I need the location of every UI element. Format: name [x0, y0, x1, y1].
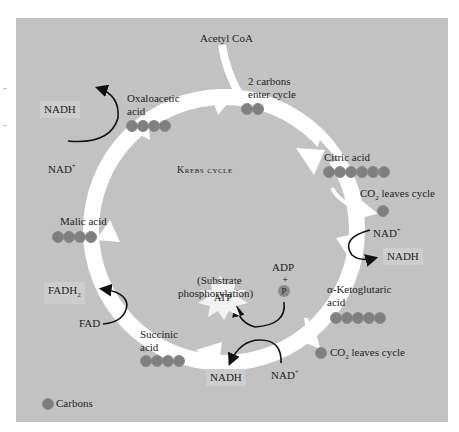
- intermediate-name: acid: [327, 296, 345, 309]
- entry-note-line2: enter cycle: [248, 88, 296, 101]
- intermediate-name: acid: [140, 341, 158, 354]
- co2-carbon-dot: [315, 347, 327, 359]
- carbon-dot: [173, 355, 185, 367]
- atp-note-line1: (Substrate: [197, 274, 242, 287]
- intermediate-name: α-Ketoglutaric: [327, 283, 391, 296]
- atp-note-line2: phosphorylation): [178, 287, 253, 300]
- edge-tick: [3, 125, 7, 126]
- phosphate-icon: P: [278, 285, 290, 297]
- fadh2-label: FADH2: [44, 282, 85, 304]
- intermediate-carbons: [52, 231, 96, 243]
- intermediate-carbons: [330, 312, 385, 324]
- carbon-dot: [374, 312, 386, 324]
- cycle-ring-arc: [91, 97, 357, 363]
- intermediate-carbons: [140, 355, 184, 367]
- legend-carbon-dot: [42, 398, 54, 410]
- adp-to-atp-arrow: [236, 302, 284, 327]
- co2-leaves-label-2: CO2 leaves cycle: [330, 346, 405, 364]
- intermediate-name: Citric acid: [324, 151, 370, 164]
- intermediate-carbons: [126, 120, 170, 132]
- entry-note-line1: 2 carbons: [248, 75, 290, 88]
- legend-label: Carbons: [56, 397, 93, 410]
- co2-carbon-dot: [377, 205, 389, 217]
- acetyl-coa-entry-arrow: [222, 45, 240, 95]
- nadh-label-left: NADH: [40, 101, 80, 118]
- intermediate-name: Malic acid: [60, 215, 107, 228]
- acetyl-coa-label: Acetyl CoA: [200, 32, 253, 45]
- nadh-label-right: NADH: [383, 248, 423, 265]
- co2-leaves-label-1: CO2 leaves cycle: [360, 187, 435, 205]
- carbon-dot: [252, 103, 264, 115]
- fad-label: FAD: [79, 317, 100, 330]
- intermediate-name: Oxaloacetic: [127, 92, 180, 105]
- nad-label-bottom: NAD+: [271, 366, 299, 382]
- edge-tick: [3, 88, 7, 89]
- carbon-dot: [378, 166, 390, 178]
- intermediate-name: acid: [127, 105, 145, 118]
- nadh-label-bottom: NADH: [206, 369, 246, 386]
- carbon-dot: [159, 120, 171, 132]
- entry-carbons: [241, 103, 263, 115]
- nad-label-right: NAD+: [373, 224, 401, 240]
- intermediate-carbons: [323, 166, 389, 178]
- carbon-dot: [85, 231, 97, 243]
- nad-label-left: NAD+: [48, 160, 76, 176]
- intermediate-name: Succinic: [140, 328, 178, 341]
- center-label: Krebs cycle: [177, 163, 233, 176]
